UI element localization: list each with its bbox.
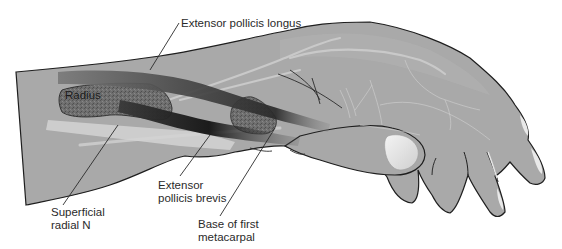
- label-extensor-pollicis-brevis: Extensor pollicis brevis: [158, 179, 226, 205]
- wrist-anatomy-illustration: Extensor pollicis longus Radius Extensor…: [0, 0, 562, 249]
- label-base-of-first-metacarpal: Base of first metacarpal: [198, 218, 259, 244]
- label-extensor-pollicis-longus: Extensor pollicis longus: [181, 17, 301, 30]
- label-superficial-radial-nerve: Superficial radial N: [51, 206, 105, 232]
- label-radius: Radius: [65, 89, 101, 102]
